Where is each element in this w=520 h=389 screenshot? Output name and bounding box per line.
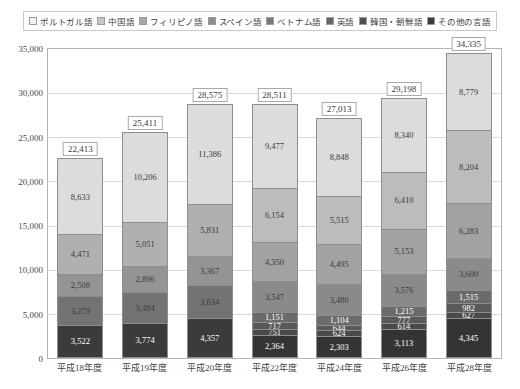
bar-segment[interactable]: 777 bbox=[382, 317, 426, 324]
plot-area: 05,00010,00015,00020,00025,00030,00035,0… bbox=[47, 48, 502, 359]
stacked-bar[interactable]: 11,3865,8313,3673,6344,357 bbox=[187, 104, 233, 358]
stacked-bar[interactable]: 8,7798,2046,2833,6001,5159826274,345 bbox=[446, 53, 492, 358]
legend-label: ベトナム語 bbox=[277, 15, 321, 27]
legend-swatch-icon bbox=[359, 17, 367, 25]
bar-segment[interactable]: 4,350 bbox=[253, 243, 297, 281]
bar-column: 29,1988,3406,4105,1533,5761,2157776143,1… bbox=[372, 49, 437, 358]
bar-segment[interactable]: 4,345 bbox=[447, 319, 491, 357]
legend-item[interactable]: フィリピノ語 bbox=[139, 15, 203, 27]
bar-segment[interactable]: 9,477 bbox=[253, 105, 297, 189]
legend-swatch-icon bbox=[266, 17, 274, 25]
bar-segment[interactable]: 4,495 bbox=[317, 245, 361, 285]
bar-segment[interactable]: 1,151 bbox=[253, 313, 297, 323]
bar-segment[interactable]: 3,634 bbox=[188, 286, 232, 318]
legend-swatch-icon bbox=[97, 17, 105, 25]
y-axis-tick-label: 30,000 bbox=[18, 88, 43, 98]
chart-root: ポルトガル語中国語フィリピノ語スペイン語ベトナム語英語韓国・朝鮮語その他の言語 … bbox=[0, 0, 520, 389]
bar-segment[interactable]: 5,515 bbox=[317, 197, 361, 246]
bar-segment-label: 4,495 bbox=[330, 260, 349, 269]
legend-item[interactable]: スペイン語 bbox=[208, 15, 262, 27]
bar-segment[interactable]: 10,206 bbox=[123, 133, 167, 223]
bar-total-label: 34,335 bbox=[451, 37, 486, 51]
bar-segment[interactable]: 1,515 bbox=[447, 291, 491, 304]
legend-swatch-icon bbox=[326, 17, 334, 25]
bar-segment-label: 3,279 bbox=[71, 307, 90, 316]
bar-segment-label: 5,515 bbox=[330, 216, 349, 225]
bar-segment[interactable]: 6,283 bbox=[447, 204, 491, 259]
legend-label: 中国語 bbox=[108, 15, 134, 27]
stacked-bar[interactable]: 10,2065,0512,8963,4843,774 bbox=[122, 132, 168, 358]
bar-segment[interactable]: 6,154 bbox=[253, 189, 297, 243]
bar-segment[interactable]: 8,779 bbox=[447, 54, 491, 132]
legend-item[interactable]: 韓国・朝鮮語 bbox=[359, 15, 423, 27]
gridline: 0 bbox=[48, 358, 501, 359]
x-axis-tick-label: 平成22年度 bbox=[242, 361, 307, 383]
bar-segment-label: 2,896 bbox=[136, 275, 155, 284]
legend-item[interactable]: 中国語 bbox=[97, 15, 134, 27]
bar-total-label: 28,575 bbox=[192, 88, 227, 102]
bar-segment[interactable]: 2,303 bbox=[317, 337, 361, 357]
bar-segment-label: 1,151 bbox=[265, 313, 284, 322]
bar-segment[interactable]: 751 bbox=[253, 330, 297, 337]
bar-segment[interactable]: 3,279 bbox=[58, 297, 102, 326]
bar-segment[interactable]: 3,576 bbox=[382, 275, 426, 307]
legend-item[interactable]: その他の言語 bbox=[427, 15, 491, 27]
legend-item[interactable]: ベトナム語 bbox=[266, 15, 321, 27]
bar-segment[interactable]: 6,410 bbox=[382, 173, 426, 230]
bar-segment[interactable]: 2,364 bbox=[253, 336, 297, 357]
bar-total-label: 29,198 bbox=[387, 82, 422, 96]
bar-segment[interactable]: 3,484 bbox=[123, 293, 167, 324]
stacked-bar[interactable]: 8,6334,4712,5083,2793,522 bbox=[57, 158, 103, 358]
bar-segment[interactable]: 2,508 bbox=[58, 275, 102, 297]
bar-segment[interactable]: 5,051 bbox=[123, 223, 167, 268]
bar-segment[interactable]: 8,204 bbox=[447, 131, 491, 203]
bar-segment[interactable]: 1,215 bbox=[382, 307, 426, 318]
bar-segment[interactable]: 8,340 bbox=[382, 99, 426, 173]
bar-segment-label: 1,215 bbox=[394, 307, 413, 316]
bar-total-label: 27,013 bbox=[322, 102, 357, 116]
bar-segment-label: 3,522 bbox=[71, 337, 90, 346]
legend-item[interactable]: 英語 bbox=[326, 15, 355, 27]
bar-segment[interactable]: 5,153 bbox=[382, 230, 426, 275]
bar-segment[interactable]: 4,471 bbox=[58, 235, 102, 274]
bar-segment-label: 3,600 bbox=[459, 270, 478, 279]
stacked-bar[interactable]: 8,8485,5154,4953,4801,1046446242,303 bbox=[316, 118, 362, 358]
bar-segment-label: 8,779 bbox=[459, 88, 478, 97]
bar-segment[interactable]: 3,480 bbox=[317, 285, 361, 316]
x-axis-tick-label: 平成26年度 bbox=[372, 361, 437, 383]
legend-label: 英語 bbox=[337, 15, 355, 27]
bar-segment[interactable]: 1,104 bbox=[317, 316, 361, 326]
bar-column: 28,57511,3865,8313,3673,6344,357 bbox=[177, 49, 242, 358]
bar-segment-label: 4,357 bbox=[200, 334, 219, 343]
bar-segment[interactable]: 2,896 bbox=[123, 267, 167, 293]
bar-segment[interactable]: 3,547 bbox=[253, 282, 297, 313]
bar-segment[interactable]: 3,113 bbox=[382, 330, 426, 357]
bar-segment[interactable]: 3,774 bbox=[123, 324, 167, 357]
bar-segment-label: 3,634 bbox=[200, 298, 219, 307]
bar-segment[interactable]: 3,600 bbox=[447, 259, 491, 291]
x-axis-labels: 平成18年度平成19年度平成20年度平成22年度平成24年度平成26年度平成28… bbox=[47, 361, 502, 383]
bar-segment[interactable]: 4,357 bbox=[188, 319, 232, 357]
bar-segment-label: 5,153 bbox=[394, 247, 413, 256]
bar-segment[interactable]: 3,522 bbox=[58, 326, 102, 357]
bar-segment-label: 9,477 bbox=[265, 142, 284, 151]
bar-segment[interactable]: 11,386 bbox=[188, 105, 232, 206]
bar-segment[interactable]: 8,633 bbox=[58, 159, 102, 235]
bar-segment-label: 6,154 bbox=[265, 211, 284, 220]
bar-segment[interactable]: 3,367 bbox=[188, 257, 232, 287]
bar-segment-label: 3,774 bbox=[136, 336, 155, 345]
legend-swatch-icon bbox=[208, 17, 216, 25]
stacked-bar[interactable]: 9,4776,1544,3503,5471,1517177512,364 bbox=[252, 104, 298, 358]
x-axis-tick-label: 平成20年度 bbox=[177, 361, 242, 383]
bar-total-label: 22,413 bbox=[63, 142, 98, 156]
bar-segment[interactable]: 982 bbox=[447, 304, 491, 313]
bar-segment-label: 2,303 bbox=[330, 343, 349, 352]
bar-segment-label: 5,051 bbox=[136, 240, 155, 249]
bar-segment[interactable]: 5,831 bbox=[188, 205, 232, 256]
stacked-bar[interactable]: 8,3406,4105,1533,5761,2157776143,113 bbox=[381, 98, 427, 358]
legend-item[interactable]: ポルトガル語 bbox=[29, 15, 93, 27]
bar-segment[interactable]: 8,848 bbox=[317, 119, 361, 197]
bar-total-label: 25,411 bbox=[128, 116, 162, 130]
bar-segment-label: 6,283 bbox=[459, 227, 478, 236]
bar-segment-label: 1,104 bbox=[330, 316, 349, 325]
